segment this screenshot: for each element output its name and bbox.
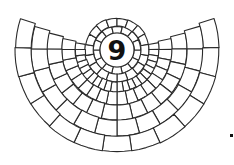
plant-cell [62, 49, 76, 60]
plant-cell [32, 27, 50, 50]
marker-dot [230, 134, 233, 137]
plant-cell [117, 91, 128, 105]
plant-cell [117, 118, 139, 136]
plant-cell [106, 18, 117, 27]
plant-cell [117, 104, 133, 121]
plant-cell [62, 39, 77, 50]
plant-cell [75, 43, 86, 50]
plant-cell [117, 81, 124, 92]
plant-cell [200, 48, 219, 77]
plant-cell [158, 39, 172, 50]
plant-cell [171, 33, 188, 49]
plant-cell [149, 43, 160, 50]
plant-cell [102, 135, 131, 151]
plant-cell [15, 48, 34, 77]
plant-cell [47, 49, 63, 65]
plant-cell [31, 49, 49, 71]
cell-tissue-diagram: 9 [0, 0, 234, 165]
plant-cell [141, 44, 149, 55]
plant-cell [75, 49, 85, 56]
figure-number-label: 9 [108, 35, 127, 66]
